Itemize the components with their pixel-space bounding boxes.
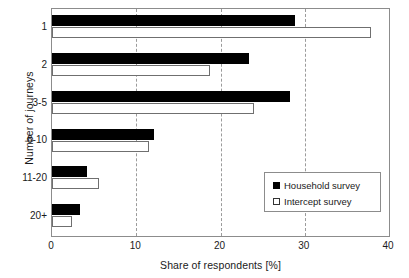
y-tick-label-3-5: 3-5 (0, 98, 47, 108)
bar-group (52, 85, 389, 123)
x-tick-label-10: 10 (115, 240, 155, 251)
bar-household-6-10 (52, 129, 154, 140)
bar-chart-figure: Number of journeys Share of respondents … (0, 0, 409, 278)
bar-household-1 (52, 15, 295, 26)
bar-intercept-2 (52, 65, 210, 76)
bar-household-11-20 (52, 166, 87, 177)
bar-household-2 (52, 53, 249, 64)
bar-intercept-1 (52, 27, 371, 38)
y-tick-label-1: 1 (0, 22, 47, 32)
bar-intercept-11-20 (52, 178, 99, 189)
x-tick-label-40: 40 (368, 240, 408, 251)
legend-label-intercept: Intercept survey (284, 196, 352, 207)
legend-label-household: Household survey (284, 180, 360, 191)
bar-group (52, 9, 389, 47)
x-tick-label-0: 0 (31, 240, 71, 251)
y-tick-label-6-10: 6-10 (0, 135, 47, 145)
legend-item-intercept: Intercept survey (273, 193, 380, 209)
bar-household-3-5 (52, 91, 290, 102)
y-tick-label-2: 2 (0, 60, 47, 70)
bar-intercept-3-5 (52, 103, 254, 114)
bar-group (52, 47, 389, 85)
bar-group (52, 123, 389, 161)
bar-household-20+ (52, 204, 80, 215)
x-tick-label-20: 20 (200, 240, 240, 251)
legend-swatch-household-icon (273, 182, 280, 189)
chart-legend: Household survey Intercept survey (264, 172, 381, 212)
legend-item-household: Household survey (273, 177, 380, 193)
bar-intercept-6-10 (52, 141, 149, 152)
bar-intercept-20+ (52, 216, 72, 227)
x-tick-label-30: 30 (284, 240, 324, 251)
x-axis-title: Share of respondents [%] (51, 259, 390, 271)
y-tick-label-11-20: 11-20 (0, 173, 47, 183)
legend-swatch-intercept-icon (273, 198, 280, 205)
y-tick-label-20+: 20+ (0, 211, 47, 221)
